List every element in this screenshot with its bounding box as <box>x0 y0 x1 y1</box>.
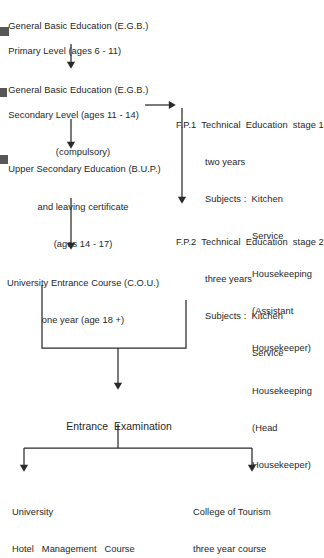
node-fp2-subjects-label: Subjects : Kitchen <box>176 310 319 322</box>
node-cou-line-1: University Entrance Course (C.O.U.) <box>3 277 163 289</box>
node-fp2-subject: Housekeeping <box>176 385 319 397</box>
node-entrance-exam: Entrance Examination <box>44 396 194 446</box>
node-bup: Upper Secondary Education (B.U.P.) and l… <box>3 151 163 263</box>
node-college-line-2: three year course <box>193 543 319 555</box>
node-fp2-subject: Housekeeper) <box>176 459 319 471</box>
node-egb-primary-line-2: Primary Level (ages 6 - 11) <box>8 46 121 56</box>
node-college: College of Tourism three year course <box>193 481 319 558</box>
node-fp2-subject: Service <box>176 347 319 359</box>
node-fp2: F.P.2 Technical Education stage 2 three … <box>176 211 319 484</box>
node-fp1-duration: two years <box>176 156 319 168</box>
node-entrance-exam-label: Entrance Examination <box>44 421 194 433</box>
node-college-line-1: College of Tourism <box>193 506 319 518</box>
node-fp1-subjects-label: Subjects : Kitchen <box>176 193 319 205</box>
node-fp2-duration: three years <box>176 273 319 285</box>
node-fp1-head: F.P.1 Technical Education stage 1 <box>176 119 319 131</box>
node-cou: University Entrance Course (C.O.U.) one … <box>3 252 163 339</box>
node-university-line-1: University <box>12 506 182 518</box>
node-bup-line-2: and leaving certificate <box>3 201 163 213</box>
node-university-line-2: Hotel Management Course <box>12 543 182 555</box>
node-egb-secondary-line-2: Secondary Level (ages 11 - 14) <box>8 110 139 120</box>
node-egb-primary-line-1: General Basic Education (E.G.B.) <box>8 21 148 31</box>
node-cou-line-2: one year (age 18 +) <box>3 314 163 326</box>
node-university: University Hotel Management Course <box>12 481 182 558</box>
node-bup-line-1: Upper Secondary Education (B.U.P.) <box>8 164 160 174</box>
node-fp2-head: F.P.2 Technical Education stage 2 <box>176 236 319 248</box>
node-egb-secondary-line-1: General Basic Education (E.G.B.) <box>8 85 148 95</box>
node-bup-line-3: (ages 14 - 17) <box>3 238 163 250</box>
node-fp2-subject: (Head <box>176 422 319 434</box>
node-egb-primary: General Basic Education (E.G.B.) Primary… <box>3 8 163 58</box>
